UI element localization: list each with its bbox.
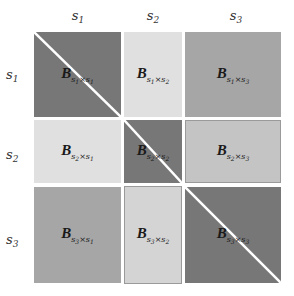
column-header-s1: s1	[72, 8, 84, 25]
block-s3-s2: Bs3×s2	[124, 186, 182, 284]
block-s3-s3: Bs3×s3	[185, 187, 281, 283]
block-s3-s1: Bs3×s1	[34, 187, 121, 283]
row-header-s3: s3	[6, 232, 18, 249]
block-label: Bs3×s3	[217, 225, 250, 245]
block-label: Bs2×s2	[137, 142, 170, 162]
block-label: Bs3×s2	[137, 225, 170, 245]
block-label: Bs2×s3	[217, 142, 250, 162]
block-s1-s3: Bs1×s3	[185, 32, 281, 117]
block-s2-s2: Bs2×s2	[124, 120, 182, 183]
row-header-s1: s1	[6, 67, 18, 84]
column-header-s2: s2	[147, 8, 159, 25]
block-s2-s3: Bs2×s3	[185, 120, 281, 183]
block-label: Bs2×s1	[61, 142, 94, 162]
block-s1-s1: Bs1×s1	[34, 32, 121, 117]
block-label: Bs3×s1	[61, 225, 94, 245]
block-s1-s2: Bs1×s2	[124, 32, 182, 117]
block-label: Bs1×s2	[137, 65, 170, 85]
block-label: Bs1×s3	[217, 65, 250, 85]
block-label: Bs1×s1	[61, 65, 94, 85]
block-s2-s1: Bs2×s1	[34, 120, 121, 183]
column-header-s3: s3	[230, 8, 242, 25]
row-header-s2: s2	[6, 147, 18, 164]
